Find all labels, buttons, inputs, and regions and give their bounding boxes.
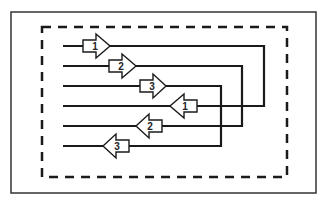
- arrow-label: 2: [147, 121, 153, 132]
- arrow-markers: 123123: [83, 34, 197, 158]
- arrow-label: 3: [149, 81, 155, 92]
- arrow-label: 1: [182, 101, 188, 112]
- arrow-label: 3: [114, 141, 120, 152]
- arrow-right-2: 2: [109, 54, 136, 78]
- loop-1-path: [63, 46, 264, 106]
- arrow-right-1: 1: [83, 34, 110, 58]
- loop-3-path: [63, 86, 221, 146]
- dashed-boundary: [42, 27, 287, 177]
- arrow-label: 1: [92, 41, 98, 52]
- signal-loops: [63, 46, 264, 146]
- arrow-left-3: 3: [103, 134, 129, 158]
- arrow-label: 2: [118, 61, 124, 72]
- loop-diagram: 123123: [0, 0, 327, 202]
- outer-frame: [11, 12, 316, 193]
- arrow-left-1: 1: [170, 94, 197, 118]
- arrow-right-3: 3: [140, 74, 166, 98]
- arrow-left-2: 2: [136, 114, 162, 138]
